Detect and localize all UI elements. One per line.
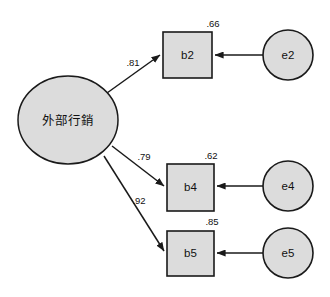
indicator-label-b5: b5 (184, 247, 197, 259)
indicator-label-b2: b2 (181, 49, 194, 61)
diagram-canvas: 外部行銷 b2 .66 .81 b4 .62 .79 b5 .85 .92 e2 (0, 0, 330, 297)
error-label-e2: e2 (282, 49, 295, 61)
error-path-group (215, 55, 263, 253)
loading-path-group (104, 55, 164, 251)
smc-label-b5: .85 (205, 216, 218, 227)
loading-label-b4: .79 (137, 151, 150, 162)
indicator-label-b4: b4 (184, 181, 197, 193)
error-label-e5: e5 (282, 247, 295, 259)
indicator-node-b4[interactable]: b4 (167, 164, 214, 211)
error-label-e4: e4 (282, 180, 295, 192)
loading-label-b2: .81 (126, 57, 139, 68)
indicator-node-b2[interactable]: b2 (163, 32, 212, 78)
error-node-e2[interactable]: e2 (263, 30, 313, 80)
smc-label-b4: .62 (204, 150, 217, 161)
latent-variable-node[interactable]: 外部行銷 (18, 76, 118, 164)
latent-variable-label: 外部行銷 (42, 113, 94, 128)
loading-label-b5: .92 (132, 195, 145, 206)
indicator-node-b5[interactable]: b5 (167, 231, 214, 276)
sem-path-diagram: 外部行銷 b2 .66 .81 b4 .62 .79 b5 .85 .92 e2 (0, 0, 330, 297)
smc-label-b2: .66 (206, 18, 219, 29)
error-node-e5[interactable]: e5 (263, 228, 313, 278)
error-node-e4[interactable]: e4 (263, 161, 313, 211)
